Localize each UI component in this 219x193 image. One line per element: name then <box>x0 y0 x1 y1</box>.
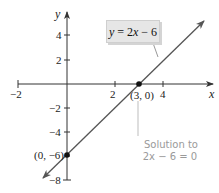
point-x-intercept-label: (3, 0) <box>130 89 154 102</box>
equation-label-box: y = 2x − 6 <box>106 20 160 43</box>
equation-tail: − 6 <box>138 25 157 39</box>
equation-leader <box>153 43 158 57</box>
point-y-intercept <box>64 152 70 158</box>
point-y-intercept-label: (0, −6) <box>34 149 64 162</box>
y-axis-label: y <box>54 7 61 21</box>
equation-mid: = 2 <box>114 25 133 39</box>
x-axis-label: x <box>208 87 215 101</box>
x-tick-label: 4 <box>160 88 166 100</box>
point-x-intercept <box>136 81 142 87</box>
x-tick-label: 2 <box>110 88 116 100</box>
y-tick-label: 2 <box>56 54 62 66</box>
solution-label-line1: Solution to <box>144 139 198 150</box>
y-tick-label: −2 <box>49 102 61 114</box>
solution-label-line2: 2x − 6 = 0 <box>143 151 197 162</box>
x-tick-label: −2 <box>10 88 22 100</box>
y-tick-label: −8 <box>49 174 61 186</box>
y-tick-label: −4 <box>49 126 61 138</box>
y-tick-label: 4 <box>56 29 62 41</box>
